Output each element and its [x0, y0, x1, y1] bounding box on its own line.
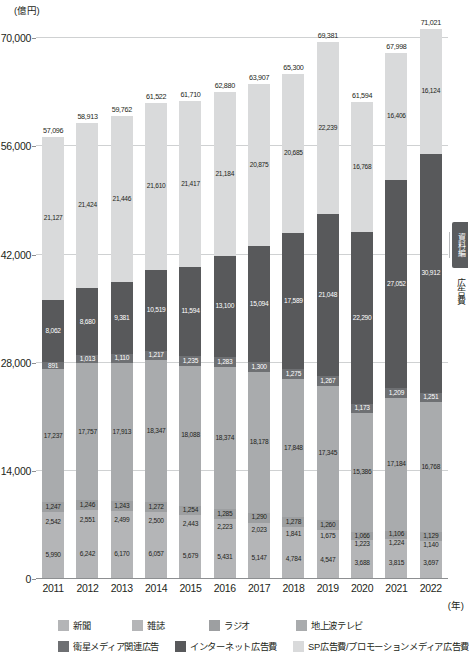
bar-segment[interactable]: 2,443: [179, 515, 201, 534]
bar-segment[interactable]: 5,431: [214, 536, 236, 578]
bar-segment[interactable]: 17,848: [282, 379, 304, 517]
bar-segment[interactable]: 1,675: [317, 530, 339, 543]
bar-segment[interactable]: 2,551: [76, 510, 98, 530]
legend-item[interactable]: インターネット広告費: [175, 639, 277, 653]
bar-segment[interactable]: 1,841: [282, 527, 304, 541]
bar-segment[interactable]: 5,990: [42, 532, 64, 578]
stacked-bar[interactable]: 61,71021,41711,5941,23518,0881,2542,4435…: [179, 101, 201, 578]
bar-segment[interactable]: 17,913: [111, 363, 133, 501]
bar-segment[interactable]: 20,875: [248, 84, 270, 245]
bar-segment[interactable]: 891: [42, 362, 64, 369]
bar-segment[interactable]: 4,784: [282, 541, 304, 578]
bar-segment[interactable]: 16,406: [385, 53, 407, 180]
bar-segment[interactable]: 6,242: [76, 530, 98, 578]
bar-segment[interactable]: 22,290: [351, 232, 373, 404]
bar-segment[interactable]: 1,209: [385, 388, 407, 397]
bar-segment[interactable]: 2,223: [214, 519, 236, 536]
bar-segment[interactable]: 1,217: [145, 351, 167, 360]
bar-segment[interactable]: 3,697: [420, 549, 442, 578]
bar-segment[interactable]: 9,381: [111, 282, 133, 354]
bar-segment[interactable]: 1,243: [111, 501, 133, 511]
legend-item[interactable]: SP広告費/プロモーションメディア広告費: [293, 639, 469, 653]
bar-segment[interactable]: 20,685: [282, 74, 304, 234]
legend-item[interactable]: 雑誌: [132, 618, 164, 632]
bar-segment[interactable]: 1,254: [179, 506, 201, 516]
bar-segment[interactable]: 1,251: [420, 393, 442, 403]
bar-segment[interactable]: 16,768: [420, 402, 442, 532]
bar-segment[interactable]: 4,547: [317, 543, 339, 578]
bar-segment[interactable]: 15,094: [248, 246, 270, 363]
stacked-bar[interactable]: 65,30020,68517,5891,27517,8481,2781,8414…: [282, 74, 304, 578]
bar-segment[interactable]: 30,912: [420, 154, 442, 393]
bar-segment[interactable]: 18,347: [145, 360, 167, 502]
bar-segment[interactable]: 18,374: [214, 367, 236, 509]
stacked-bar[interactable]: 69,38122,23921,0481,26717,3451,2601,6754…: [317, 42, 339, 578]
legend-item[interactable]: 衛星メディア関連広告: [58, 639, 159, 653]
bar-segment[interactable]: 8,062: [42, 300, 64, 362]
bar-segment[interactable]: 1,224: [385, 539, 407, 548]
bar-segment[interactable]: 1,260: [317, 520, 339, 530]
bar-segment[interactable]: 21,184: [214, 92, 236, 256]
bar-segment[interactable]: 27,052: [385, 180, 407, 389]
bar-segment[interactable]: 1,110: [111, 354, 133, 363]
legend-item[interactable]: 地上波テレビ: [296, 618, 363, 632]
bar-segment[interactable]: 18,178: [248, 372, 270, 512]
bar-segment[interactable]: 21,610: [145, 103, 167, 270]
bar-segment[interactable]: 1,066: [351, 532, 373, 540]
bar-segment[interactable]: 1,140: [420, 541, 442, 550]
bar-segment[interactable]: 1,013: [76, 355, 98, 363]
bar-segment[interactable]: 16,768: [351, 102, 373, 232]
bar-segment[interactable]: 17,345: [317, 386, 339, 520]
bar-segment[interactable]: 3,815: [385, 548, 407, 577]
bar-segment[interactable]: 13,100: [214, 256, 236, 357]
bar-segment[interactable]: 8,680: [76, 288, 98, 355]
bar-segment[interactable]: 1,275: [282, 369, 304, 379]
bar-segment[interactable]: 1,235: [179, 356, 201, 366]
bar-segment[interactable]: 17,184: [385, 398, 407, 531]
bar-segment[interactable]: 18,088: [179, 366, 201, 506]
bar-segment[interactable]: 21,127: [42, 137, 64, 300]
bar-segment[interactable]: 15,386: [351, 413, 373, 532]
bar-segment[interactable]: 21,417: [179, 101, 201, 266]
stacked-bar[interactable]: 57,09621,1278,06289117,2371,2472,5425,99…: [42, 137, 64, 578]
stacked-bar[interactable]: 71,02116,12430,9121,25116,7681,1291,1403…: [420, 29, 442, 578]
side-tab-button[interactable]: 資料編: [452, 222, 468, 268]
bar-segment[interactable]: 22,239: [317, 42, 339, 214]
bar-segment[interactable]: 1,272: [145, 502, 167, 512]
stacked-bar[interactable]: 61,52221,61010,5191,21718,3471,2722,5006…: [145, 103, 167, 578]
bar-segment[interactable]: 3,688: [351, 549, 373, 577]
stacked-bar[interactable]: 61,59416,76822,2901,17315,3861,0661,2233…: [351, 102, 373, 578]
stacked-bar[interactable]: 67,99816,40627,0521,20917,1841,1061,2243…: [385, 53, 407, 578]
bar-segment[interactable]: 1,283: [214, 357, 236, 367]
stacked-bar[interactable]: 63,90720,87515,0941,30018,1781,2902,0235…: [248, 84, 270, 578]
bar-segment[interactable]: 2,542: [42, 512, 64, 532]
bar-segment[interactable]: 17,237: [42, 369, 64, 502]
bar-segment[interactable]: 1,129: [420, 532, 442, 541]
bar-segment[interactable]: 1,173: [351, 404, 373, 413]
bar-segment[interactable]: 6,057: [145, 531, 167, 578]
bar-segment[interactable]: 1,278: [282, 517, 304, 527]
bar-segment[interactable]: 1,246: [76, 500, 98, 510]
bar-segment[interactable]: 1,106: [385, 531, 407, 540]
bar-segment[interactable]: 17,589: [282, 233, 304, 369]
bar-segment[interactable]: 1,300: [248, 362, 270, 372]
legend-item[interactable]: 新聞: [58, 618, 90, 632]
bar-segment[interactable]: 10,519: [145, 270, 167, 351]
bar-segment[interactable]: 6,170: [111, 530, 133, 578]
bar-segment[interactable]: 16,124: [420, 29, 442, 154]
bar-segment[interactable]: 1,285: [214, 509, 236, 519]
bar-segment[interactable]: 1,247: [42, 502, 64, 512]
bar-segment[interactable]: 5,147: [248, 538, 270, 578]
bar-segment[interactable]: 21,446: [111, 116, 133, 282]
bar-segment[interactable]: 21,048: [317, 214, 339, 377]
stacked-bar[interactable]: 59,76221,4469,3811,11017,9131,2432,4996,…: [111, 116, 133, 578]
stacked-bar[interactable]: 58,91321,4248,6801,01317,7571,2462,5516,…: [76, 123, 98, 578]
bar-segment[interactable]: 2,500: [145, 512, 167, 531]
bar-segment[interactable]: 1,290: [248, 513, 270, 523]
bar-segment[interactable]: 21,424: [76, 123, 98, 288]
bar-segment[interactable]: 1,267: [317, 376, 339, 386]
legend-item[interactable]: ラジオ: [209, 618, 250, 632]
bar-segment[interactable]: 1,223: [351, 540, 373, 549]
stacked-bar[interactable]: 62,88021,18413,1001,28318,3741,2852,2235…: [214, 92, 236, 578]
bar-segment[interactable]: 17,757: [76, 363, 98, 500]
